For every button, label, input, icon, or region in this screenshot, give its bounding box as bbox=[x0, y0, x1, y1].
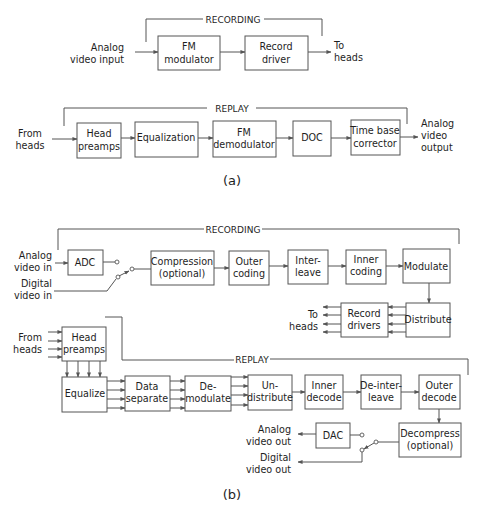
svg-text:Equalization: Equalization bbox=[137, 132, 196, 143]
time-base-corrector-block: Time base corrector bbox=[349, 120, 400, 155]
analog-video-in-label-1: Analog bbox=[19, 250, 52, 261]
svg-text:decode: decode bbox=[306, 392, 341, 403]
svg-text:drivers: drivers bbox=[347, 320, 380, 331]
distribute-block: Distribute bbox=[404, 303, 451, 337]
svg-text:corrector: corrector bbox=[353, 138, 396, 149]
svg-text:(optional): (optional) bbox=[407, 440, 453, 451]
head-preamps-block: Head preamps bbox=[77, 123, 121, 158]
fig-a-input-label-1: Analog bbox=[91, 42, 124, 53]
svg-text:Record: Record bbox=[259, 41, 292, 52]
outer-decode-block: Outer decode bbox=[419, 375, 460, 409]
fig-a-input-label-2: video input bbox=[70, 54, 124, 65]
svg-text:ADC: ADC bbox=[75, 257, 96, 268]
svg-text:Equalize: Equalize bbox=[65, 388, 105, 399]
svg-text:Modulate: Modulate bbox=[404, 261, 449, 272]
compression-block: Compression (optional) bbox=[151, 251, 214, 285]
fig-b-to-heads-label-2: heads bbox=[289, 321, 318, 332]
svg-text:De-: De- bbox=[200, 381, 217, 392]
svg-text:modulator: modulator bbox=[164, 54, 214, 65]
svg-text:Un-: Un- bbox=[262, 380, 279, 391]
digital-video-out-label-2: video out bbox=[246, 464, 291, 475]
digital-video-in-label-1: Digital bbox=[21, 278, 52, 289]
data-separate-block: Data separate bbox=[125, 376, 170, 411]
fig-a-recording: RECORDING Analog video input FM modulato… bbox=[70, 15, 363, 70]
svg-text:Time base: Time base bbox=[349, 125, 399, 136]
svg-text:FM: FM bbox=[182, 41, 196, 52]
digital-video-in-label-2: video in bbox=[14, 290, 52, 301]
doc-block: DOC bbox=[293, 121, 331, 156]
analog-video-out-label-1: Analog bbox=[258, 424, 291, 435]
fig-b-caption: (b) bbox=[223, 487, 241, 502]
record-driver-block: Record driver bbox=[245, 36, 308, 70]
deinterleave-block: De-inter- leave bbox=[360, 375, 402, 409]
svg-text:Decompress: Decompress bbox=[400, 428, 460, 439]
fig-b-replay: REPLAY From heads Head preamps Equalize … bbox=[13, 317, 468, 475]
svg-text:Compression: Compression bbox=[151, 256, 213, 267]
fig-b-from-heads-label-1: From bbox=[18, 332, 42, 343]
demodulate-block: De- modulate bbox=[185, 376, 231, 411]
inner-coding-block: Inner coding bbox=[346, 250, 386, 284]
svg-text:Inter-: Inter- bbox=[295, 255, 320, 266]
digital-video-out-label-1: Digital bbox=[260, 452, 291, 463]
svg-text:Inner: Inner bbox=[354, 254, 379, 265]
dac-block: DAC bbox=[316, 423, 350, 448]
svg-text:distribute: distribute bbox=[247, 392, 293, 403]
fig-a-replay: REPLAY From heads Head preamps Equalizat… bbox=[16, 104, 455, 158]
svg-text:Data: Data bbox=[136, 381, 159, 392]
undistribute-block: Un- distribute bbox=[247, 375, 293, 410]
fig-a-replay-output-3: output bbox=[421, 142, 453, 153]
fig-a-output-label-1: To bbox=[333, 40, 344, 51]
svg-text:DOC: DOC bbox=[301, 132, 323, 143]
fm-demodulator-block: FM demodulator bbox=[213, 121, 276, 157]
equalization-block: Equalization bbox=[135, 122, 198, 157]
svg-text:preamps: preamps bbox=[78, 141, 120, 152]
svg-text:preamps: preamps bbox=[63, 344, 105, 355]
svg-text:FM: FM bbox=[237, 127, 251, 138]
svg-text:leave: leave bbox=[368, 392, 394, 403]
fig-a-recording-title: RECORDING bbox=[206, 15, 261, 25]
head-preamps-block-b: Head preamps bbox=[62, 327, 106, 361]
svg-text:leave: leave bbox=[295, 267, 321, 278]
video-recorder-block-diagram: RECORDING Analog video input FM modulato… bbox=[0, 0, 482, 511]
fig-b-from-heads-label-2: heads bbox=[13, 344, 42, 355]
decompress-block: Decompress (optional) bbox=[399, 423, 461, 457]
inner-decode-block: Inner decode bbox=[305, 375, 343, 409]
fig-a-output-label-2: heads bbox=[334, 52, 363, 63]
fig-b-recording: RECORDING Analog video in ADC Digital vi… bbox=[14, 225, 459, 337]
modulate-block: Modulate bbox=[403, 249, 450, 283]
svg-text:demodulator: demodulator bbox=[213, 139, 275, 150]
svg-text:coding: coding bbox=[233, 268, 265, 279]
equalize-block: Equalize bbox=[62, 377, 107, 412]
svg-text:(optional): (optional) bbox=[159, 268, 205, 279]
fig-a-replay-input-2: heads bbox=[16, 140, 45, 151]
fig-b-to-heads-label-1: To bbox=[307, 309, 318, 320]
adc-block: ADC bbox=[68, 250, 103, 275]
fig-a-replay-title: REPLAY bbox=[215, 104, 249, 114]
fig-a-caption: (a) bbox=[223, 173, 241, 188]
analog-video-in-label-2: video in bbox=[14, 262, 52, 273]
analog-video-out-label-2: video out bbox=[246, 436, 291, 447]
outer-coding-block: Outer coding bbox=[229, 251, 269, 285]
svg-text:DAC: DAC bbox=[323, 430, 344, 441]
svg-text:Record: Record bbox=[347, 308, 380, 319]
fig-a-replay-output-2: video bbox=[421, 130, 447, 141]
svg-text:Head: Head bbox=[86, 128, 111, 139]
svg-text:Inner: Inner bbox=[312, 380, 337, 391]
fig-b-replay-title: REPLAY bbox=[235, 355, 269, 365]
record-drivers-block: Record drivers bbox=[341, 303, 388, 337]
interleave-block: Inter- leave bbox=[288, 250, 328, 284]
svg-text:De-inter-: De-inter- bbox=[360, 380, 402, 391]
svg-text:separate: separate bbox=[126, 393, 168, 404]
svg-text:Head: Head bbox=[71, 332, 96, 343]
fig-a-replay-output-1: Analog bbox=[421, 118, 454, 129]
svg-text:Outer: Outer bbox=[235, 256, 262, 267]
svg-text:modulate: modulate bbox=[185, 393, 231, 404]
fig-a-replay-input-1: From bbox=[18, 128, 42, 139]
svg-text:Outer: Outer bbox=[425, 380, 452, 391]
fm-modulator-block: FM modulator bbox=[158, 36, 220, 70]
svg-text:coding: coding bbox=[350, 266, 382, 277]
svg-text:Distribute: Distribute bbox=[404, 314, 451, 325]
svg-text:driver: driver bbox=[262, 54, 290, 65]
svg-text:decode: decode bbox=[421, 392, 456, 403]
fig-b-recording-title: RECORDING bbox=[206, 225, 261, 235]
